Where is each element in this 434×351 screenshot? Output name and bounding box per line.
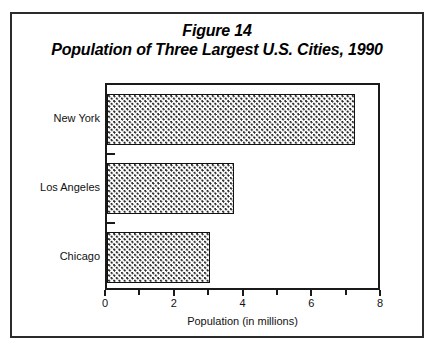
figure-title-line-2: Population of Three Largest U.S. Cities,…	[10, 41, 424, 60]
x-axis-title: Population (in millions)	[105, 315, 380, 327]
bar-los-angeles	[107, 163, 234, 214]
figure-container: Figure 14 Population of Three Largest U.…	[0, 0, 434, 351]
figure-title: Figure 14 Population of Three Largest U.…	[10, 22, 424, 60]
x-axis-ticks	[105, 290, 380, 297]
x-axis-tick-1	[138, 290, 140, 295]
x-axis-tick-5	[276, 290, 278, 295]
y-axis-tick	[107, 222, 115, 224]
x-axis-tick-2	[173, 290, 175, 296]
y-axis-category-labels: New YorkLos AngelesChicago	[0, 83, 100, 290]
x-axis-tick-labels: 02468	[105, 297, 380, 313]
x-axis-tick-6	[310, 290, 312, 296]
x-axis-tick-8	[379, 290, 381, 296]
y-axis-label-chicago: Chicago	[2, 250, 100, 262]
bar-chicago	[107, 232, 210, 283]
y-axis-label-los-angeles: Los Angeles	[2, 181, 100, 193]
x-axis-tick-0	[104, 290, 106, 296]
x-axis-label-6: 6	[308, 297, 314, 309]
x-axis-label-2: 2	[171, 297, 177, 309]
x-axis-tick-3	[207, 290, 209, 295]
x-axis-tick-7	[345, 290, 347, 295]
bar-new-york	[107, 94, 355, 145]
plot-area	[105, 83, 380, 290]
x-axis-label-8: 8	[377, 297, 383, 309]
x-axis-label-0: 0	[102, 297, 108, 309]
plot-inner	[107, 85, 378, 288]
figure-title-line-1: Figure 14	[10, 22, 424, 41]
y-axis-tick	[107, 153, 115, 155]
x-axis-tick-4	[242, 290, 244, 296]
y-axis-label-new-york: New York	[2, 112, 100, 124]
x-axis-label-4: 4	[239, 297, 245, 309]
